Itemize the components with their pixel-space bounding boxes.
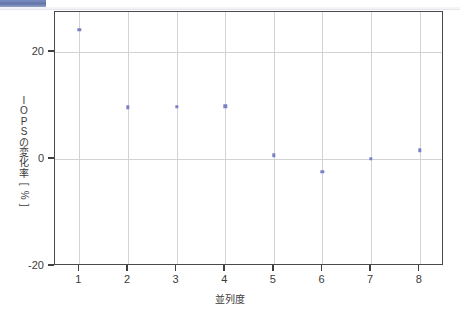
data-point	[126, 105, 129, 108]
x-tick-label: 3	[173, 273, 179, 285]
gridline-vertical	[420, 12, 421, 264]
data-point	[272, 154, 275, 157]
data-point	[78, 28, 81, 31]
x-tick-mark	[223, 265, 224, 271]
data-point	[418, 149, 421, 152]
gridline-vertical	[225, 12, 226, 264]
x-tick-label: 1	[75, 273, 81, 285]
x-tick-mark	[126, 265, 127, 271]
y-tick-label: -20	[6, 259, 44, 271]
y-tick-label: 0	[6, 152, 44, 164]
x-tick-label: 4	[221, 273, 227, 285]
data-point	[223, 104, 226, 107]
x-tick-mark	[272, 265, 273, 271]
gridline-horizontal	[55, 159, 442, 160]
y-tick-label: 20	[6, 45, 44, 57]
gridline-vertical	[177, 12, 178, 264]
data-point	[175, 105, 178, 108]
gridline-vertical	[274, 12, 275, 264]
x-tick-mark	[418, 265, 419, 271]
x-tick-label: 8	[416, 273, 422, 285]
gridline-horizontal	[55, 52, 442, 53]
x-tick-mark	[369, 265, 370, 271]
x-tick-label: 7	[367, 273, 373, 285]
data-point	[321, 170, 324, 173]
x-tick-mark	[321, 265, 322, 271]
gridline-vertical	[371, 12, 372, 264]
gridline-vertical	[128, 12, 129, 264]
gridline-vertical	[79, 12, 80, 264]
y-axis-title-char: ]	[19, 197, 29, 213]
x-tick-label: 5	[270, 273, 276, 285]
x-tick-mark	[175, 265, 176, 271]
plot-area	[54, 11, 443, 265]
x-tick-mark	[78, 265, 79, 271]
scatter-chart-figure: IOPSの変化率[%] 200-20 12345678 並列度	[0, 0, 460, 315]
data-point	[369, 157, 372, 160]
x-tick-label: 6	[318, 273, 324, 285]
gridline-vertical	[322, 12, 323, 264]
x-tick-label: 2	[124, 273, 130, 285]
x-axis-title: 並列度	[0, 291, 460, 306]
